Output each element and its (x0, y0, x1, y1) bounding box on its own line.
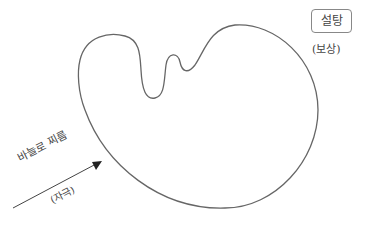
organism-outline (78, 25, 318, 208)
reward-box: 설탕 (311, 9, 352, 33)
reward-sublabel: (보상) (312, 40, 341, 56)
reward-label: 설탕 (321, 14, 343, 28)
